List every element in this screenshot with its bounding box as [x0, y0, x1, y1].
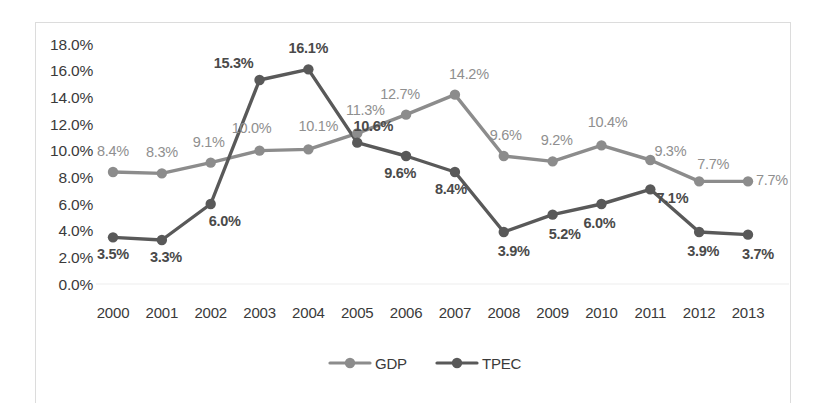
data-label-gdp: 10.4% [588, 114, 628, 130]
data-point-tpec [450, 167, 460, 177]
data-point-tpec [108, 232, 118, 242]
y-axis-tick-label: 12.0% [50, 116, 93, 133]
x-axis-tick-label: 2006 [390, 304, 423, 321]
y-axis-tick-label: 8.0% [58, 169, 93, 186]
data-point-tpec [596, 199, 606, 209]
data-point-gdp [596, 140, 606, 150]
data-label-gdp: 10.1% [299, 118, 339, 134]
y-axis-tick-label: 16.0% [50, 62, 93, 79]
data-label-gdp: 7.7% [756, 172, 788, 188]
data-label-tpec: 3.7% [742, 246, 774, 262]
x-axis-tick-label: 2008 [487, 304, 520, 321]
x-axis-tick-label: 2002 [194, 304, 227, 321]
x-axis-tick-label: 2005 [341, 304, 374, 321]
x-axis-tick-label: 2011 [635, 304, 666, 321]
data-label-gdp: 7.7% [697, 156, 729, 172]
data-label-tpec: 3.9% [498, 243, 530, 259]
data-label-gdp: 12.7% [380, 86, 420, 102]
data-point-tpec [694, 227, 704, 237]
line-chart: 18.0%16.0%14.0%12.0%10.0%8.0%6.0%4.0%2.0… [0, 0, 832, 403]
x-axis-tick-labels: 2000200120022003200420052006200720082009… [97, 304, 765, 321]
data-point-tpec [547, 209, 557, 219]
legend-marker-gdp [345, 358, 355, 368]
x-axis-tick-label: 2001 [146, 304, 179, 321]
x-axis-tick-label: 2000 [97, 304, 130, 321]
data-point-gdp [450, 89, 460, 99]
data-label-tpec: 3.9% [687, 243, 719, 259]
data-label-tpec: 10.6% [353, 118, 393, 134]
data-label-tpec: 8.4% [435, 181, 467, 197]
data-label-gdp: 9.3% [654, 143, 686, 159]
data-label-gdp: 8.3% [146, 144, 178, 160]
data-label-gdp: 9.6% [490, 127, 522, 143]
x-axis-tick-label: 2004 [292, 304, 325, 321]
chart-container: 18.0%16.0%14.0%12.0%10.0%8.0%6.0%4.0%2.0… [0, 0, 832, 403]
y-axis-tick-label: 0.0% [58, 276, 93, 293]
data-label-gdp: 14.2% [449, 66, 489, 82]
x-axis-tick-label: 2010 [585, 304, 618, 321]
data-point-tpec [645, 184, 655, 194]
data-point-gdp [254, 145, 264, 155]
y-axis-tick-label: 6.0% [58, 196, 93, 213]
y-axis-tick-label: 18.0% [50, 36, 93, 53]
data-label-tpec: 7.1% [656, 190, 688, 206]
data-point-gdp [547, 156, 557, 166]
y-axis-tick-label: 4.0% [58, 222, 93, 239]
data-label-tpec: 6.0% [584, 215, 616, 231]
data-point-tpec [499, 227, 509, 237]
data-point-gdp [303, 144, 313, 154]
data-point-gdp [108, 167, 118, 177]
y-axis-tick-label: 14.0% [50, 89, 93, 106]
data-label-gdp: 9.2% [541, 132, 573, 148]
data-point-tpec [157, 235, 167, 245]
data-point-tpec [254, 75, 264, 85]
legend: GDPTPEC [330, 355, 522, 372]
y-axis-tick-label: 2.0% [58, 249, 93, 266]
data-label-tpec: 15.3% [214, 55, 254, 71]
data-labels-group: 8.4%8.3%9.1%10.0%10.1%11.3%12.7%14.2%9.6… [97, 40, 788, 265]
data-label-gdp: 10.0% [232, 120, 272, 136]
data-point-gdp [743, 176, 753, 186]
data-label-gdp: 11.3% [346, 102, 385, 118]
x-axis-tick-label: 2012 [683, 304, 716, 321]
legend-marker-tpec [452, 358, 462, 368]
y-axis-tick-label: 10.0% [50, 142, 93, 159]
data-label-tpec: 6.0% [209, 213, 241, 229]
data-label-tpec: 5.2% [549, 226, 581, 242]
data-point-gdp [157, 168, 167, 178]
data-label-gdp: 8.4% [97, 143, 129, 159]
x-axis-tick-label: 2013 [732, 304, 765, 321]
data-label-tpec: 16.1% [289, 40, 329, 56]
y-axis-tick-labels: 18.0%16.0%14.0%12.0%10.0%8.0%6.0%4.0%2.0… [50, 36, 93, 293]
data-label-tpec: 3.3% [150, 249, 182, 265]
data-point-tpec [205, 199, 215, 209]
data-label-gdp: 9.1% [193, 134, 225, 150]
data-point-tpec [401, 151, 411, 161]
x-axis-tick-label: 2007 [439, 304, 472, 321]
data-label-tpec: 3.5% [97, 246, 129, 262]
legend-label-gdp: GDP [375, 355, 407, 372]
data-point-tpec [743, 229, 753, 239]
data-label-tpec: 9.6% [384, 165, 416, 181]
data-point-tpec [303, 64, 313, 74]
data-point-gdp [401, 109, 411, 119]
x-axis-tick-label: 2003 [243, 304, 276, 321]
data-point-gdp [205, 157, 215, 167]
data-point-tpec [352, 137, 362, 147]
x-axis-tick-label: 2009 [536, 304, 569, 321]
data-point-gdp [694, 176, 704, 186]
legend-label-tpec: TPEC [482, 355, 522, 372]
data-point-gdp [499, 151, 509, 161]
